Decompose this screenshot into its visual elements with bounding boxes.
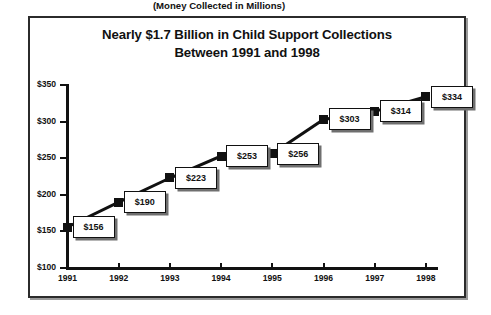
- data-value-label: $314: [380, 100, 422, 122]
- y-tick-mark: [60, 121, 68, 123]
- y-tick-label: $350: [10, 79, 56, 89]
- x-tick-mark: [374, 263, 376, 270]
- y-tick-mark: [60, 84, 68, 86]
- x-tick-mark: [323, 263, 325, 270]
- data-point-marker: [114, 198, 123, 207]
- data-point-marker: [370, 107, 379, 116]
- y-axis-line: [66, 84, 69, 270]
- x-tick-label: 1992: [97, 273, 141, 283]
- x-tick-label: 1997: [353, 273, 397, 283]
- data-value-label: $303: [329, 108, 371, 130]
- y-tick-mark: [60, 194, 68, 196]
- y-tick-label: $200: [10, 189, 56, 199]
- x-tick-label: 1994: [199, 273, 243, 283]
- x-tick-mark: [169, 263, 171, 270]
- chart-subtitle: (Money Collected in Millions): [0, 0, 438, 11]
- data-point-marker: [165, 173, 174, 182]
- x-tick-mark: [220, 263, 222, 270]
- data-point-marker: [421, 92, 430, 101]
- y-tick-mark: [60, 157, 68, 159]
- x-tick-mark: [67, 263, 69, 270]
- x-tick-label: 1993: [148, 273, 192, 283]
- x-tick-label: 1998: [404, 273, 448, 283]
- x-axis-line: [66, 267, 438, 270]
- data-point-marker: [319, 115, 328, 124]
- chart-title-line-1: Nearly $1.7 Billion in Child Support Col…: [28, 27, 466, 42]
- x-tick-label: 1991: [46, 273, 90, 283]
- y-tick-label: $150: [10, 225, 56, 235]
- data-value-label: $223: [175, 167, 217, 189]
- x-tick-mark: [118, 263, 120, 270]
- y-tick-label: $300: [10, 116, 56, 126]
- data-value-label: $256: [277, 143, 319, 165]
- y-tick-label: $100: [10, 262, 56, 272]
- data-value-label: $190: [124, 191, 166, 213]
- data-point-marker: [268, 149, 277, 158]
- x-tick-mark: [425, 263, 427, 270]
- data-point-marker: [63, 223, 72, 232]
- data-value-label: $156: [73, 216, 115, 238]
- x-tick-label: 1995: [250, 273, 294, 283]
- y-tick-label: $250: [10, 152, 56, 162]
- data-value-label: $334: [431, 86, 473, 108]
- data-point-marker: [217, 152, 226, 161]
- data-value-label: $253: [226, 145, 268, 167]
- chart-title-line-2: Between 1991 and 1998: [28, 45, 466, 60]
- x-tick-label: 1996: [302, 273, 346, 283]
- chart-container: Nearly $1.7 Billion in Child Support Col…: [0, 0, 491, 315]
- x-tick-mark: [271, 263, 273, 270]
